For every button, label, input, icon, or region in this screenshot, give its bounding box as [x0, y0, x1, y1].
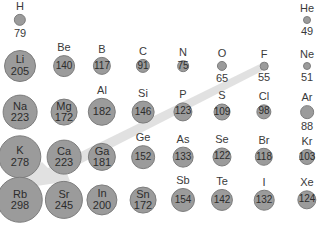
- element-symbol: As: [177, 134, 190, 145]
- element-symbol: S: [218, 90, 225, 101]
- radius-value: 172: [55, 112, 73, 124]
- radius-circle: Sn172: [130, 187, 157, 214]
- radius-value: 55: [258, 72, 270, 83]
- element-symbol: Ar: [302, 92, 313, 103]
- radius-value: 205: [11, 66, 29, 78]
- element-symbol: C: [139, 46, 147, 57]
- element-symbol: Xe: [300, 177, 313, 188]
- radius-circle: 133: [173, 147, 194, 168]
- radius-circle: Mg172: [51, 99, 78, 126]
- radius-circle: 109: [214, 104, 231, 121]
- radius-value: 98: [258, 107, 269, 118]
- radius-circle: [300, 105, 314, 119]
- radius-value: 79: [14, 28, 26, 39]
- element-symbol: Br: [259, 135, 270, 146]
- radius-circle: Li205: [4, 50, 36, 82]
- radius-value: 182: [93, 106, 111, 118]
- radius-value: 109: [214, 107, 231, 118]
- radius-value: 132: [256, 195, 273, 206]
- radius-circle: 152: [131, 145, 155, 169]
- radius-value: 118: [256, 152, 272, 163]
- radius-value: 91: [137, 61, 148, 72]
- radius-circle: 103: [299, 149, 315, 165]
- radius-value: 278: [11, 157, 29, 169]
- element-symbol: Si: [138, 88, 148, 99]
- element-symbol: Se: [215, 134, 228, 145]
- radius-value: 154: [175, 195, 192, 206]
- radius-value: 65: [216, 73, 228, 84]
- atomic-radius-diagram: H79He49Li205Be140B117C91N75O65F55Ne51Na2…: [0, 0, 319, 225]
- element-symbol: Kr: [302, 136, 313, 147]
- radius-value: 200: [93, 200, 111, 212]
- radius-circle: 140: [53, 55, 75, 77]
- element-symbol: Sb: [176, 175, 189, 186]
- radius-circle: 75: [177, 60, 189, 72]
- radius-value: 142: [214, 195, 231, 206]
- radius-value: 124: [299, 195, 316, 206]
- radius-value: 181: [93, 157, 111, 169]
- radius-value: 117: [94, 61, 110, 72]
- element-symbol: B: [98, 44, 105, 55]
- element-symbol: Cl: [259, 91, 269, 102]
- element-symbol: Al: [97, 85, 107, 96]
- radius-value: 172: [134, 200, 152, 212]
- element-symbol: Ge: [136, 132, 151, 143]
- radius-value: 298: [11, 200, 29, 212]
- element-symbol: N: [179, 47, 187, 58]
- radius-circle: 122: [212, 147, 231, 166]
- radius-value: 123: [175, 107, 192, 118]
- radius-value: 152: [135, 152, 152, 163]
- radius-circle: [303, 16, 311, 24]
- radius-circle: Ca223: [47, 140, 82, 175]
- element-symbol: In: [97, 188, 106, 200]
- radius-value: 146: [135, 107, 152, 118]
- element-symbol: F: [261, 49, 268, 60]
- radius-value: 103: [299, 152, 316, 163]
- radius-value: 223: [55, 157, 73, 169]
- radius-value: 133: [175, 152, 192, 163]
- radius-circle: Na223: [3, 95, 38, 130]
- radius-circle: 91: [136, 59, 150, 73]
- element-symbol: P: [179, 89, 186, 100]
- radius-value: 245: [55, 200, 73, 212]
- radius-circle: [303, 62, 311, 70]
- element-symbol: O: [218, 48, 227, 59]
- radius-circle: 146: [132, 101, 155, 124]
- element-symbol: H: [16, 1, 24, 12]
- radius-value: 51: [301, 72, 313, 83]
- radius-value: 140: [56, 61, 73, 72]
- radius-value: 75: [177, 61, 188, 72]
- radius-value: 88: [301, 121, 313, 132]
- element-symbol: He: [300, 3, 314, 14]
- radius-circle: 154: [171, 188, 195, 212]
- radius-value: 49: [301, 26, 313, 37]
- radius-value: 122: [214, 152, 231, 163]
- element-symbol: I: [262, 177, 265, 188]
- radius-circle: 132: [254, 190, 275, 211]
- radius-value: 223: [11, 112, 29, 124]
- element-symbol: Te: [216, 176, 228, 187]
- element-symbol: Ne: [300, 49, 314, 60]
- element-symbol: Be: [57, 42, 70, 53]
- radius-circle: [260, 62, 269, 71]
- element-symbol: K: [16, 145, 23, 157]
